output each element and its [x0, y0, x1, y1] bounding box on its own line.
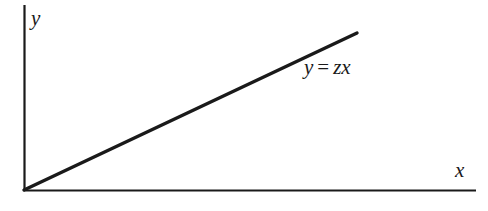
x-axis-label: x — [455, 160, 464, 181]
line-graph-figure: y x y=zx — [0, 0, 488, 211]
equation-variable: x — [341, 55, 350, 79]
equation-lhs: y — [304, 55, 313, 79]
equation-operator: = — [313, 55, 333, 79]
plot-canvas — [0, 0, 488, 211]
line-equation-annotation: y=zx — [304, 57, 351, 78]
y-axis-label: y — [31, 8, 40, 29]
